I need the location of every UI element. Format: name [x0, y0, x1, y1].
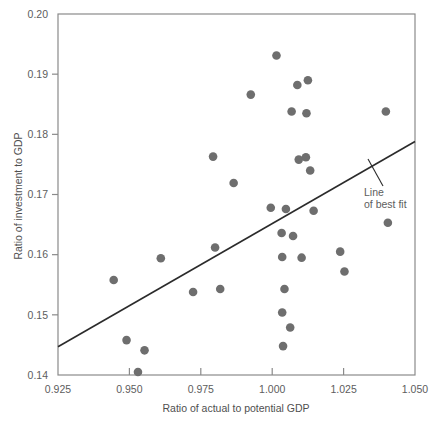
scatter-point	[382, 107, 391, 116]
scatter-point	[293, 81, 302, 90]
scatter-point	[297, 253, 306, 262]
scatter-point	[277, 229, 286, 238]
scatter-point	[109, 276, 118, 285]
y-tick-label-0.15: 0.15	[28, 309, 49, 321]
y-axis-ticks	[52, 74, 58, 315]
scatter-point	[140, 346, 149, 355]
scatter-point	[211, 243, 220, 252]
scatter-point	[309, 206, 318, 215]
plot-area-border	[58, 14, 415, 375]
scatter-point	[122, 336, 131, 345]
x-tick-label-0.950: 0.950	[116, 383, 142, 395]
y-tick-label-0.19: 0.19	[28, 68, 49, 80]
scatter-point	[280, 285, 289, 294]
scatter-point	[246, 90, 255, 99]
scatter-point	[278, 308, 287, 317]
scatter-point	[302, 153, 311, 162]
scatter-point	[209, 152, 218, 161]
x-axis-title: Ratio of actual to potential GDP	[162, 402, 309, 414]
scatter-point	[282, 205, 291, 214]
chart-svg: 0.140.150.160.170.180.190.20 0.9250.9500…	[0, 0, 432, 426]
scatter-point	[336, 247, 345, 256]
plot-frame	[58, 14, 415, 375]
scatter-point	[229, 179, 238, 188]
y-tick-label-0.17: 0.17	[28, 188, 49, 200]
x-axis-tick-labels: 0.9250.9500.9751.0001.0251.050	[45, 383, 428, 395]
scatter-point	[278, 253, 287, 262]
y-tick-label-0.14: 0.14	[28, 369, 49, 381]
scatter-point	[306, 166, 315, 175]
scatter-point	[384, 218, 393, 227]
scatter-point	[286, 323, 295, 332]
x-tick-label-0.925: 0.925	[45, 383, 71, 395]
scatter-point	[340, 267, 349, 276]
scatter-point	[302, 109, 311, 118]
y-axis-tick-labels: 0.140.150.160.170.180.190.20	[28, 8, 49, 381]
y-tick-label-0.16: 0.16	[28, 248, 49, 260]
scatter-point	[134, 368, 143, 377]
scatter-point	[279, 342, 288, 351]
y-axis-title: Ratio of investment to GDP	[12, 132, 24, 259]
scatter-point	[304, 76, 313, 85]
best-fit-label-line2: of best fit	[364, 198, 407, 210]
x-tick-label-0.975: 0.975	[188, 383, 214, 395]
x-tick-label-1.050: 1.050	[402, 383, 428, 395]
scatter-point	[289, 232, 298, 241]
y-tick-label-0.18: 0.18	[28, 128, 49, 140]
scatter-point	[266, 203, 275, 212]
scatter-plot-figure: 0.140.150.160.170.180.190.20 0.9250.9500…	[0, 0, 432, 426]
scatter-point	[287, 107, 296, 116]
scatter-point	[157, 254, 166, 263]
scatter-point	[272, 51, 281, 60]
best-fit-label-line1: Line	[364, 186, 384, 198]
y-tick-label-0.20: 0.20	[28, 8, 49, 20]
scatter-point	[216, 285, 225, 294]
x-tick-label-1.025: 1.025	[330, 383, 356, 395]
scatter-point	[189, 288, 198, 297]
x-tick-label-1.000: 1.000	[259, 383, 285, 395]
